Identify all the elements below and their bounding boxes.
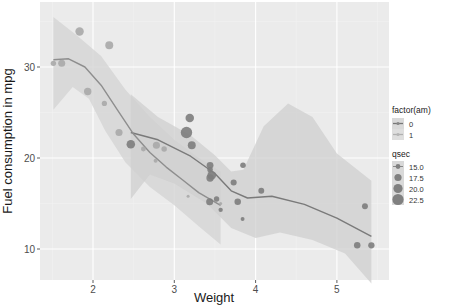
data-point (84, 88, 91, 95)
x-tick-label: 3 (172, 284, 178, 295)
data-point (153, 142, 160, 149)
y-tick-label: 10 (24, 244, 36, 255)
data-point (362, 203, 368, 209)
legend-qsec-key-22-5: 22.5 (392, 194, 424, 205)
data-point (368, 242, 374, 248)
data-point (105, 41, 113, 49)
legend-am-title: factor(am) (392, 105, 431, 115)
legend-qsec: qsec 15.0 17.5 20.0 22.5 (392, 149, 424, 205)
x-axis-title: Weight (194, 290, 235, 305)
data-point (234, 198, 241, 205)
data-point (258, 188, 264, 194)
data-point (187, 195, 190, 198)
legend-am: factor(am) 0 1 (392, 105, 431, 140)
data-point (240, 163, 246, 169)
data-point (58, 60, 65, 67)
data-point (354, 242, 360, 248)
x-tick-label: 5 (334, 284, 340, 295)
data-point (154, 159, 158, 163)
data-point (219, 202, 222, 205)
data-point (127, 140, 136, 149)
data-point (207, 171, 216, 180)
legend-qsec-key-15: 15.0 (392, 161, 424, 172)
y-axis-ticks: 102030 (24, 62, 40, 255)
x-tick-label: 2 (90, 284, 96, 295)
legend-am-label-1: 1 (409, 131, 413, 140)
legend-qsec-key-17-5: 17.5 (392, 172, 424, 183)
data-point (188, 141, 196, 149)
legend-am-label-0: 0 (409, 120, 413, 129)
data-point (115, 129, 122, 136)
legend-qsec-key-20: 20.0 (392, 183, 424, 194)
data-point (214, 196, 219, 201)
legend-qsec-label-17-5: 17.5 (409, 174, 424, 183)
y-tick-label: 30 (24, 62, 36, 73)
legend-am-key-1: 1 (392, 129, 413, 140)
chart: 2345 102030 Weight Fuel consumption in m… (0, 0, 449, 307)
data-point (241, 217, 245, 221)
data-point (206, 198, 213, 205)
legend-qsec-title: qsec (392, 149, 411, 159)
data-point (141, 146, 146, 151)
y-tick-label: 20 (24, 153, 36, 164)
data-point (207, 162, 214, 169)
data-point (51, 61, 56, 66)
legend-qsec-label-15: 15.0 (409, 163, 424, 172)
data-point (75, 27, 83, 35)
y-axis-title: Fuel consumption in mpg (0, 68, 15, 213)
data-point (185, 114, 194, 123)
legend-qsec-label-22-5: 22.5 (409, 196, 424, 205)
data-point (231, 180, 237, 186)
x-tick-label: 4 (253, 284, 259, 295)
data-point (218, 208, 222, 212)
data-point (181, 127, 192, 138)
data-point (161, 146, 167, 152)
legend-qsec-label-20: 20.0 (409, 185, 424, 194)
data-point (102, 101, 107, 106)
legend-am-key-0: 0 (392, 118, 413, 129)
